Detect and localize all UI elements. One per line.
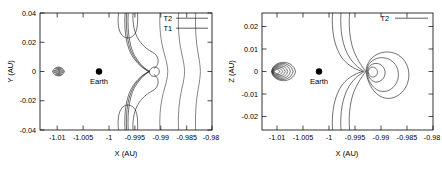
panel-xz-plane: Earth T2 <box>221 0 442 169</box>
legend-entry-t2-label-xz: T2 <box>380 14 389 23</box>
xy-ytick-1: 0.02 <box>22 38 36 47</box>
xz-ytick-0: 0.02 <box>244 22 258 31</box>
xz-xtick-6: -0.98 <box>424 133 440 142</box>
xy-xtick-4: -0.99 <box>153 133 169 142</box>
xz-ytick-1: 0.01 <box>244 45 258 54</box>
legend-entry-t1-label: T1 <box>163 24 172 33</box>
xz-yaxis-title: Z (AU) <box>227 60 236 83</box>
xy-y-ticklabels: 0.04 0.02 0 -0.02 -0.04 <box>20 9 36 135</box>
xy-ytick-3: -0.02 <box>20 96 36 105</box>
xz-xtick-3: -0.995 <box>345 133 365 142</box>
earth-label-xy: Earth <box>90 77 108 86</box>
xz-xtick-1: -1.005 <box>293 133 313 142</box>
xz-legend: T2 <box>380 14 428 23</box>
xz-x-ticks <box>277 13 433 130</box>
earth-marker-xz <box>316 68 322 74</box>
xz-ytick-4: -0.02 <box>242 112 258 121</box>
xy-xaxis-title: X (AU) <box>115 149 138 158</box>
xy-plot-svg: Earth T2 T1 <box>0 0 221 169</box>
xy-xtick-3: -0.995 <box>125 133 145 142</box>
xy-legend: T2 T1 <box>163 14 208 33</box>
xy-yaxis-title: Y (AU) <box>6 60 15 83</box>
contour-figure: Earth T2 T1 <box>0 0 442 169</box>
xy-ytick-4: -0.04 <box>20 126 36 135</box>
xy-y-ticks <box>40 13 212 130</box>
xy-xtick-1: -1.005 <box>73 133 93 142</box>
xy-xtick-0: -1.01 <box>49 133 65 142</box>
earth-label-xz: Earth <box>310 77 328 86</box>
xy-nested-ovals <box>53 67 65 76</box>
xy-x-ticklabels: -1.01 -1.005 -1 -0.995 -0.99 -0.985 -0.9… <box>49 133 219 142</box>
xz-xaxis-title: X (AU) <box>336 149 359 158</box>
xy-xtick-6: -0.98 <box>203 133 219 142</box>
panel-xy-plane: Earth T2 T1 <box>0 0 221 169</box>
xz-plot-svg: Earth T2 <box>221 0 442 169</box>
xz-open-curves <box>332 13 365 130</box>
xz-x-ticklabels: -1.01 -1.005 -1 -0.995 -0.99 -0.985 -0.9… <box>269 133 440 142</box>
xy-contour-group <box>53 13 201 130</box>
xz-xtick-2: -1 <box>326 133 332 142</box>
xz-xtick-4: -0.99 <box>373 133 389 142</box>
xz-contour-group <box>272 13 409 130</box>
xz-ytick-2: 0 <box>254 67 258 76</box>
xy-xtick-5: -0.985 <box>177 133 197 142</box>
xy-ytick-0: 0.04 <box>22 9 36 18</box>
earth-marker-xy <box>96 68 102 74</box>
xy-axes-frame <box>40 13 212 130</box>
xz-closed-loops <box>366 52 409 98</box>
xy-inner-lobes <box>133 13 158 130</box>
xz-nested-shells <box>272 62 296 80</box>
xz-y-ticklabels: 0.02 0.01 0 -0.01 -0.02 <box>242 22 258 121</box>
xy-separatrix <box>125 13 150 130</box>
legend-entry-t2-label: T2 <box>163 14 172 23</box>
xz-ytick-3: -0.01 <box>242 90 258 99</box>
xy-ytick-2: 0 <box>32 67 36 76</box>
xz-xtick-0: -1.01 <box>269 133 285 142</box>
xy-xtick-2: -1 <box>106 133 112 142</box>
xz-xtick-5: -0.985 <box>397 133 417 142</box>
